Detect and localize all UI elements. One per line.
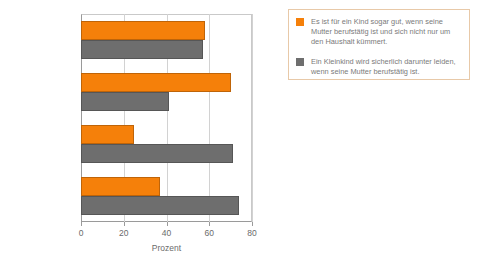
legend-label-0: Es ist für ein Kind sogar gut, wenn sein… bbox=[311, 17, 463, 48]
legend-item-1[interactable]: Ein Kleinkind wird sicherlich darunter l… bbox=[296, 57, 463, 77]
bar[interactable] bbox=[81, 92, 169, 111]
bar-chart: Männer (Ost)Frauen (Ost)Männer (West)Fra… bbox=[0, 0, 270, 263]
chart-legend: Es ist für ein Kind sogar gut, wenn sein… bbox=[288, 9, 470, 80]
x-tick-label: 80 bbox=[237, 228, 267, 238]
bar[interactable] bbox=[81, 144, 233, 163]
bar[interactable] bbox=[81, 125, 134, 144]
x-tick-mark bbox=[124, 222, 125, 226]
bar[interactable] bbox=[81, 21, 205, 40]
x-axis-title: Prozent bbox=[81, 243, 252, 253]
bar-group bbox=[81, 177, 252, 215]
legend-item-0[interactable]: Es ist für ein Kind sogar gut, wenn sein… bbox=[296, 17, 463, 48]
legend-label-1: Ein Kleinkind wird sicherlich darunter l… bbox=[311, 57, 463, 77]
x-tick-mark bbox=[252, 222, 253, 226]
bar-group bbox=[81, 125, 252, 163]
gridline bbox=[252, 14, 253, 222]
x-tick-label: 60 bbox=[194, 228, 224, 238]
x-tick-label: 20 bbox=[109, 228, 139, 238]
bar[interactable] bbox=[81, 40, 203, 59]
bar[interactable] bbox=[81, 73, 231, 92]
legend-swatch-gray bbox=[296, 58, 304, 66]
bar-group bbox=[81, 73, 252, 111]
bar[interactable] bbox=[81, 177, 160, 196]
bar-group bbox=[81, 21, 252, 59]
bar[interactable] bbox=[81, 196, 239, 215]
x-tick-label: 40 bbox=[152, 228, 182, 238]
x-tick-mark bbox=[81, 222, 82, 226]
x-tick-mark bbox=[167, 222, 168, 226]
x-tick-label: 0 bbox=[66, 228, 96, 238]
x-tick-mark bbox=[209, 222, 210, 226]
legend-swatch-orange bbox=[296, 18, 304, 26]
